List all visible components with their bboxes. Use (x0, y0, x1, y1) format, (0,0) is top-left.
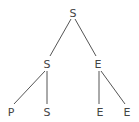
nodes: S S E P S E E (8, 7, 131, 119)
edges (14, 19, 125, 104)
node-s-mid: S (44, 58, 51, 71)
edge-e-to-e-right (101, 71, 125, 104)
node-e-leaf-right: E (124, 106, 131, 119)
node-e-mid: E (95, 58, 102, 71)
node-p-leaf: P (8, 106, 15, 119)
edge-root-to-e (75, 19, 96, 56)
node-e-leaf-left: E (97, 106, 104, 119)
node-root: S (70, 7, 77, 20)
node-s-leaf: S (44, 106, 51, 119)
edge-root-to-s (50, 19, 71, 56)
edge-s-to-p (14, 71, 45, 104)
tree-diagram: S S E P S E E (0, 0, 139, 122)
